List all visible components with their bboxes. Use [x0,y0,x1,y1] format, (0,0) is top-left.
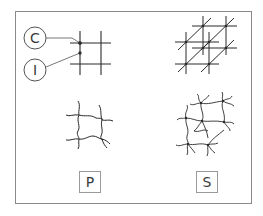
diagram-canvas: C I [0,0,263,216]
planar-network [66,101,113,149]
lattice-3d [175,16,237,74]
panel-label-p-text: P [86,174,94,190]
callout-i-label: I [33,62,37,78]
callout-c-label: C [30,30,40,46]
spatial-network [176,92,234,156]
callout-c: C [24,27,80,49]
panel-label-s: S [197,172,218,193]
panel-label-p: P [80,172,101,193]
simple-grid [70,31,111,75]
panel-label-s-text: S [203,174,212,190]
callout-i: I [24,53,80,81]
